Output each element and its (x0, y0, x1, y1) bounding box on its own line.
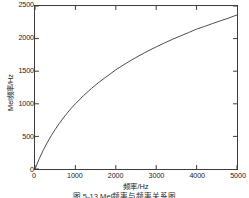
x-tick-label: 2000 (108, 172, 124, 179)
x-tick-label: 5000 (230, 172, 246, 179)
y-tick-label: 2000 (18, 34, 34, 41)
x-tick-label: 3000 (149, 172, 165, 179)
x-tick-label: 1000 (67, 172, 83, 179)
plot-canvas (35, 6, 237, 169)
y-tick-label: 2500 (18, 1, 34, 8)
x-tick-label: 4000 (189, 172, 205, 179)
x-tick-label: 0 (32, 172, 36, 179)
x-axis-tick-marks (35, 6, 237, 169)
plot-area (34, 5, 238, 170)
y-tick-label: 500 (22, 133, 34, 140)
y-tick-label: 1500 (18, 67, 34, 74)
mel-frequency-figure: 2500 2000 1500 1000 500 0 0 1000 2000 30… (0, 0, 249, 198)
mel-curve-line (35, 15, 237, 169)
y-tick-label: 1000 (18, 100, 34, 107)
y-axis-label: Mel频率/Hz (4, 58, 15, 128)
figure-caption: 图 5-13 Mel频率与频率关系图 (0, 190, 249, 198)
y-axis-tick-marks (35, 6, 237, 169)
